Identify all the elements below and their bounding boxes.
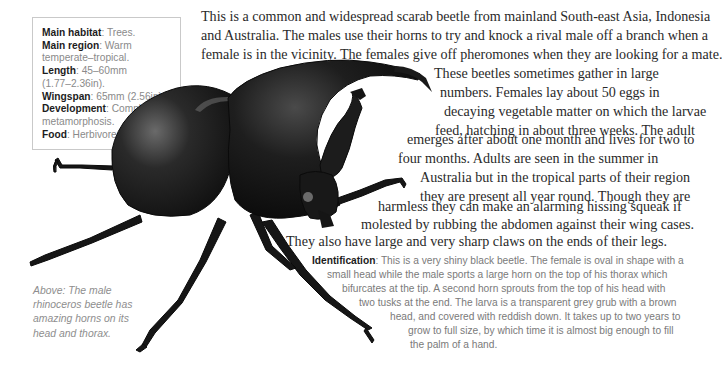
identification-line: grow to full size, by which time it is a…	[408, 324, 674, 337]
body-line: female is in the vicinity. The females g…	[201, 46, 722, 63]
image-caption: Above: The male rhinoceros beetle has am…	[33, 284, 153, 341]
fact-row-region: Main region: Warm	[42, 40, 180, 53]
fact-value: 45–60mm	[82, 65, 127, 76]
fact-value: metamorphosis.	[42, 116, 114, 127]
fact-value: Warm	[105, 40, 132, 51]
identification-line: small head while the male sports a large…	[327, 268, 667, 281]
identification-line: the palm of a hand.	[410, 338, 497, 351]
fact-row-wingspan: Wingspan: 65mm (2.56in).	[42, 91, 180, 104]
fact-value: 65mm (2.56in).	[96, 91, 165, 102]
identification-line: Identification: This is a very shiny bla…	[312, 254, 684, 267]
fact-value: Herbivore.	[73, 129, 120, 140]
fact-row-region-cont: temperate–tropical.	[42, 52, 180, 65]
identification-line: head, and covered with reddish down. It …	[390, 310, 681, 323]
fact-row-development-cont: metamorphosis.	[42, 116, 180, 129]
body-line: harmless they can make an alarming hissi…	[378, 198, 682, 215]
body-line: decaying vegetable matter on which the l…	[444, 103, 706, 120]
fact-row-length-cont: (1.77–2.36in).	[42, 78, 180, 91]
caption-line: rhinoceros beetle has	[33, 298, 153, 312]
body-line: molested by rubbing the abdomen against …	[361, 216, 694, 233]
body-line: four months. Adults are seen in the summ…	[398, 150, 658, 167]
fact-label: Main habitat	[42, 27, 101, 38]
body-line: emerges after about one month and lives …	[407, 131, 694, 148]
fact-value: Trees.	[107, 27, 136, 38]
body-line: They also have large and very sharp claw…	[286, 233, 667, 250]
fact-row-food: Food: Herbivore.	[42, 129, 180, 142]
body-line: and Australia. The males use their horns…	[201, 27, 708, 44]
fact-row-habitat: Main habitat: Trees.	[42, 27, 180, 40]
identification-text: This is a very shiny black beetle. The f…	[381, 255, 684, 266]
fact-label: Wingspan	[42, 91, 91, 102]
fact-value: (1.77–2.36in).	[42, 78, 105, 89]
body-line: numbers. Females lay about 50 eggs in	[440, 84, 660, 101]
fact-label: Food	[42, 129, 67, 140]
body-line: Australia but in the tropical parts of t…	[420, 169, 690, 186]
fact-value: Complete	[112, 103, 156, 114]
caption-line: head and thorax.	[33, 327, 153, 341]
body-line: This is a common and widespread scarab b…	[201, 8, 710, 25]
fact-label: Main region	[42, 40, 99, 51]
identification-line: two tusks at the end. The larva is a tra…	[359, 296, 677, 309]
fact-value: temperate–tropical.	[42, 52, 129, 63]
fact-row-development: Development: Complete	[42, 103, 180, 116]
identification-label: Identification	[312, 255, 375, 266]
caption-line: amazing horns on its	[33, 312, 153, 326]
fact-box: Main habitat: Trees. Main region: Warm t…	[32, 17, 181, 150]
identification-line: bifurcates at the tip. A second horn spr…	[342, 282, 665, 295]
body-line: These beetles sometimes gather in large	[434, 65, 659, 82]
fact-label: Length	[42, 65, 76, 76]
caption-line: Above: The male	[33, 284, 153, 298]
fact-row-length: Length: 45–60mm	[42, 65, 180, 78]
fact-label: Development	[42, 103, 106, 114]
